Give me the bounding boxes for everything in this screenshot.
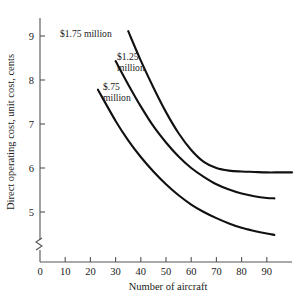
x-axis-title: Number of aircraft [129,281,208,292]
series-label-0: $1.75 million [60,28,112,39]
series-curve-1 [116,61,275,198]
series-label-4: million [103,92,131,103]
y-tick-label: 6 [29,163,34,174]
series-label-2: million [117,62,145,73]
y-tick-group: 56789 [29,31,45,218]
y-tick-label: 8 [29,75,34,86]
y-tick-label: 5 [29,207,34,218]
x-tick-group: 0102030405060708090 [37,257,272,277]
x-tick-label: 10 [60,266,71,277]
x-tick-label: 60 [186,266,197,277]
y-axis-break-icon [36,238,42,250]
x-tick-label: 70 [211,266,222,277]
x-tick-label: 90 [262,266,273,277]
x-tick-label: 50 [161,266,172,277]
series-label-1: $1.25 [117,51,139,62]
x-tick-label: 0 [37,266,42,277]
x-tick-label: 40 [136,266,147,277]
y-axis-title: Direct operating cost, unit cost, cents [5,54,16,210]
y-tick-label: 7 [29,119,34,130]
x-tick-label: 20 [85,266,96,277]
y-tick-label: 9 [29,31,34,42]
series-curve-2 [98,90,274,235]
series-curve-0 [128,31,292,172]
x-tick-label: 80 [236,266,247,277]
x-tick-label: 30 [110,266,121,277]
series-label-3: $.75 [103,81,120,92]
line-chart: 56789 0102030405060708090 $1.75 million$… [0,0,298,297]
chart-figure: 56789 0102030405060708090 $1.75 million$… [0,0,298,297]
